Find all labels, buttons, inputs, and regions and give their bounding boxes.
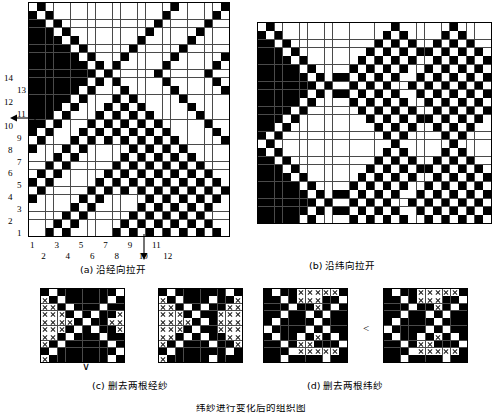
grid-b-cell[interactable] bbox=[483, 31, 491, 39]
grid-a-cell[interactable] bbox=[221, 28, 229, 36]
grid-a-cell[interactable] bbox=[37, 162, 45, 170]
grid-d1-cell[interactable] bbox=[459, 348, 467, 355]
grid-b-cell[interactable] bbox=[325, 23, 333, 31]
grid-b-cell[interactable] bbox=[283, 157, 291, 165]
grid-a-cell[interactable] bbox=[37, 45, 45, 53]
grid-b-cell[interactable] bbox=[350, 140, 358, 148]
grid-c1-cell[interactable] bbox=[201, 311, 209, 318]
grid-c0-cell[interactable] bbox=[91, 355, 99, 362]
grid-a-cell[interactable] bbox=[54, 162, 62, 170]
grid-d0-cell[interactable] bbox=[331, 348, 339, 355]
grid-c1-cell[interactable] bbox=[201, 289, 209, 296]
grid-a-cell[interactable] bbox=[205, 3, 213, 11]
grid-a-cell[interactable] bbox=[121, 120, 129, 128]
grid-a-cell[interactable] bbox=[37, 195, 45, 203]
grid-a-cell[interactable] bbox=[146, 145, 154, 153]
grid-a-cell[interactable] bbox=[104, 178, 112, 186]
grid-b-cell[interactable] bbox=[383, 199, 391, 207]
grid-a-cell[interactable] bbox=[196, 95, 204, 103]
grid-a-cell[interactable] bbox=[37, 178, 45, 186]
grid-b-cell[interactable] bbox=[383, 190, 391, 198]
grid-b-cell[interactable] bbox=[341, 132, 349, 140]
grid-d0-cell[interactable] bbox=[323, 326, 331, 333]
grid-b-cell[interactable] bbox=[283, 140, 291, 148]
grid-a-cell[interactable] bbox=[205, 20, 213, 28]
grid-b-cell[interactable] bbox=[417, 132, 425, 140]
grid-a-cell[interactable] bbox=[71, 70, 79, 78]
grid-c1-cell[interactable] bbox=[201, 304, 209, 311]
grid-b-cell[interactable] bbox=[383, 207, 391, 215]
grid-a-cell[interactable] bbox=[46, 20, 54, 28]
grid-a-cell[interactable] bbox=[96, 36, 104, 44]
grid-d1-cell[interactable] bbox=[409, 333, 417, 340]
grid-d1-cell[interactable] bbox=[417, 355, 425, 362]
grid-a-cell[interactable] bbox=[138, 36, 146, 44]
grid-b-cell[interactable] bbox=[341, 182, 349, 190]
grid-c0-cell[interactable] bbox=[83, 326, 91, 333]
grid-b-cell[interactable] bbox=[275, 215, 283, 223]
grid-d0-cell[interactable] bbox=[306, 296, 314, 303]
grid-d0-cell[interactable] bbox=[264, 326, 272, 333]
grid-b-cell[interactable] bbox=[383, 31, 391, 39]
grid-a-cell[interactable] bbox=[163, 45, 171, 53]
grid-c0-cell[interactable] bbox=[108, 304, 116, 311]
grid-a-cell[interactable] bbox=[163, 3, 171, 11]
grid-a-cell[interactable] bbox=[113, 86, 121, 94]
grid-b-cell[interactable] bbox=[408, 98, 416, 106]
grid-a-cell[interactable] bbox=[29, 78, 37, 86]
grid-b-cell[interactable] bbox=[316, 40, 324, 48]
grid-a-cell[interactable] bbox=[96, 128, 104, 136]
grid-a-cell[interactable] bbox=[188, 212, 196, 220]
grid-b-cell[interactable] bbox=[467, 140, 475, 148]
grid-a-cell[interactable] bbox=[37, 11, 45, 19]
grid-b-cell[interactable] bbox=[458, 107, 466, 115]
grid-c0-cell[interactable] bbox=[91, 348, 99, 355]
grid-a-cell[interactable] bbox=[188, 103, 196, 111]
grid-a-cell[interactable] bbox=[221, 153, 229, 161]
grid-c0-cell[interactable] bbox=[100, 311, 108, 318]
grid-b-cell[interactable] bbox=[308, 73, 316, 81]
grid-b-cell[interactable] bbox=[283, 115, 291, 123]
grid-b-cell[interactable] bbox=[308, 56, 316, 64]
grid-a-cell[interactable] bbox=[205, 153, 213, 161]
grid-b-cell[interactable] bbox=[333, 48, 341, 56]
grid-d1-cell[interactable] bbox=[443, 296, 451, 303]
grid-a-cell[interactable] bbox=[146, 28, 154, 36]
grid-d0-cell[interactable] bbox=[272, 333, 280, 340]
grid-a-cell[interactable] bbox=[121, 53, 129, 61]
grid-d1-cell[interactable] bbox=[426, 289, 434, 296]
grid-d0-cell[interactable] bbox=[306, 304, 314, 311]
grid-c1-cell[interactable] bbox=[192, 341, 200, 348]
grid-b-cell[interactable] bbox=[391, 115, 399, 123]
grid-d1-cell[interactable] bbox=[417, 333, 425, 340]
grid-c0-cell[interactable] bbox=[108, 333, 116, 340]
grid-b-cell[interactable] bbox=[266, 215, 274, 223]
grid-b-cell[interactable] bbox=[325, 98, 333, 106]
grid-a-cell[interactable] bbox=[37, 78, 45, 86]
grid-a-cell[interactable] bbox=[96, 70, 104, 78]
grid-a-cell[interactable] bbox=[88, 162, 96, 170]
grid-b-cell[interactable] bbox=[475, 148, 483, 156]
grid-a-cell[interactable] bbox=[121, 70, 129, 78]
grid-d0-cell[interactable] bbox=[339, 333, 347, 340]
grid-b-cell[interactable] bbox=[341, 56, 349, 64]
grid-b-cell[interactable] bbox=[350, 173, 358, 181]
grid-a-cell[interactable] bbox=[121, 170, 129, 178]
grid-a-cell[interactable] bbox=[163, 78, 171, 86]
grid-a-cell[interactable] bbox=[221, 103, 229, 111]
grid-d0-cell[interactable] bbox=[289, 318, 297, 325]
grid-a-cell[interactable] bbox=[54, 95, 62, 103]
grid-b-cell[interactable] bbox=[433, 148, 441, 156]
grid-a-cell[interactable] bbox=[138, 162, 146, 170]
grid-a-cell[interactable] bbox=[146, 36, 154, 44]
grid-a-cell[interactable] bbox=[221, 78, 229, 86]
grid-b-cell[interactable] bbox=[433, 207, 441, 215]
grid-c1-cell[interactable] bbox=[226, 289, 234, 296]
grid-d0-cell[interactable] bbox=[339, 311, 347, 318]
grid-b-cell[interactable] bbox=[467, 115, 475, 123]
grid-b-cell[interactable] bbox=[408, 56, 416, 64]
grid-a-cell[interactable] bbox=[205, 70, 213, 78]
grid-b-cell[interactable] bbox=[258, 107, 266, 115]
grid-a-cell[interactable] bbox=[221, 178, 229, 186]
grid-b-cell[interactable] bbox=[417, 207, 425, 215]
